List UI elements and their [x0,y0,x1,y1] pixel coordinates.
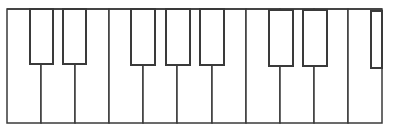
keyboard-outline [0,0,398,135]
black-key-partial [371,11,382,68]
black-key [30,9,53,64]
black-key [166,9,190,65]
black-key [200,9,224,65]
black-key [63,9,86,64]
black-key [303,10,327,66]
black-key [131,9,155,65]
piano-keyboard-diagram [0,0,398,135]
black-key [269,10,293,66]
